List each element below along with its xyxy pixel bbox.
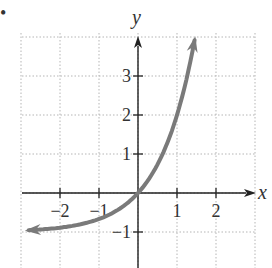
svg-text:−1: −1 — [112, 222, 131, 242]
bullet-marker: • — [0, 3, 6, 23]
svg-text:1: 1 — [173, 201, 182, 221]
y-axis-label: y — [130, 6, 141, 29]
svg-text:−2: −2 — [50, 201, 69, 221]
svg-text:1: 1 — [122, 144, 131, 164]
x-axis-label: x — [257, 181, 267, 203]
svg-text:3: 3 — [122, 66, 131, 86]
svg-text:2: 2 — [212, 201, 221, 221]
exponential-graph: • −2−112−1123 x y — [0, 0, 272, 268]
svg-text:2: 2 — [122, 105, 131, 125]
axes — [22, 36, 256, 268]
